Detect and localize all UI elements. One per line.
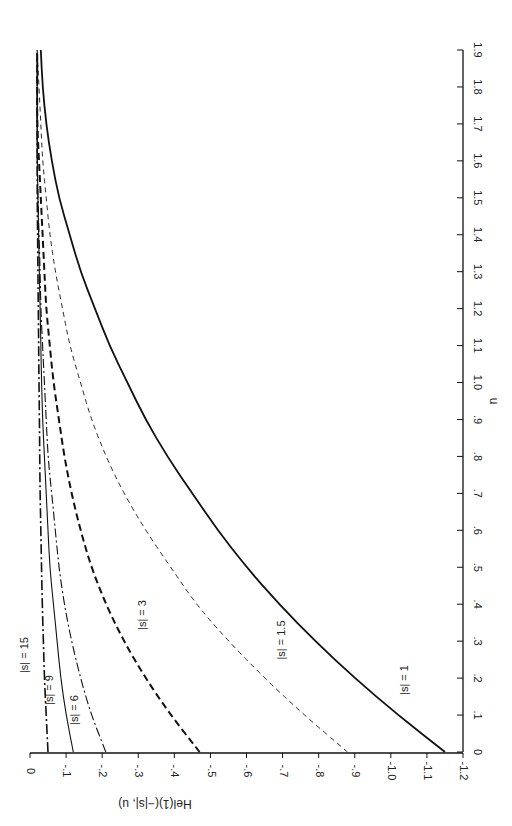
he-axis-title: Hel(1)(−|s|, u) [118, 797, 191, 811]
u-tick-label: .2 [472, 674, 484, 683]
u-tick-label: .7 [472, 489, 484, 498]
he-tick-label: -.3 [133, 765, 145, 778]
u-tick-label: 1.5 [472, 190, 484, 205]
curve-6 [37, 50, 106, 752]
he-tick-label: -1.1 [422, 762, 434, 781]
he-tick-label: 0 [25, 768, 37, 774]
he-tick-label: -.5 [206, 765, 218, 778]
u-tick-label: 1.9 [472, 42, 484, 57]
u-tick-label: 1.2 [472, 301, 484, 316]
u-tick-label: .5 [472, 563, 484, 572]
u-tick-label: 1.4 [472, 227, 484, 242]
he-tick-label: -.4 [169, 765, 181, 778]
curves [37, 50, 445, 752]
curve-3 [37, 50, 199, 752]
he-tick-label: -.6 [242, 765, 254, 778]
he-tick-label: -.8 [314, 765, 326, 778]
he-tick-label: -.7 [278, 765, 290, 778]
he-tick-label: -.9 [350, 765, 362, 778]
curve-label: |s| = 9 [43, 675, 55, 705]
axes: 0.1.2.3.4.5.6.7.8.91.01.11.21.31.41.51.6… [25, 42, 484, 780]
he-tick-label: -1.0 [386, 762, 398, 781]
u-tick-label: 1.0 [472, 375, 484, 390]
u-tick-label: 1.8 [472, 79, 484, 94]
u-tick-label: 1.6 [472, 153, 484, 168]
curve-label: |s| = 1 [398, 665, 410, 695]
u-tick-label: .6 [472, 526, 484, 535]
u-tick-label: .9 [472, 415, 484, 424]
u-axis-title: u [487, 398, 501, 405]
curve-label: |s| = 1.5 [275, 620, 287, 659]
rotated-line-chart: 0.1.2.3.4.5.6.7.8.91.01.11.21.31.41.51.6… [0, 0, 512, 826]
u-tick-label: .4 [472, 600, 484, 609]
he-tick-label: -.1 [61, 765, 73, 778]
u-tick-label: 1.7 [472, 116, 484, 131]
curve-1 [41, 50, 445, 752]
curve-label: |s| = 6 [68, 695, 80, 725]
curve-label: |s| = 3 [136, 600, 148, 630]
u-tick-label: .3 [472, 637, 484, 646]
u-tick-label: 0 [472, 749, 484, 755]
labels: uHel(1)(−|s|, u)|s| = 1|s| = 1.5|s| = 3|… [18, 398, 501, 811]
he-tick-label: -.2 [97, 765, 109, 778]
he-tick-label: -1.2 [458, 762, 470, 781]
u-tick-label: 1.3 [472, 264, 484, 279]
u-tick-label: 1.1 [472, 338, 484, 353]
u-tick-label: .8 [472, 452, 484, 461]
curve-1-5 [37, 50, 347, 752]
curve-label: |s| = 15 [18, 637, 30, 673]
u-tick-label: .1 [472, 710, 484, 719]
